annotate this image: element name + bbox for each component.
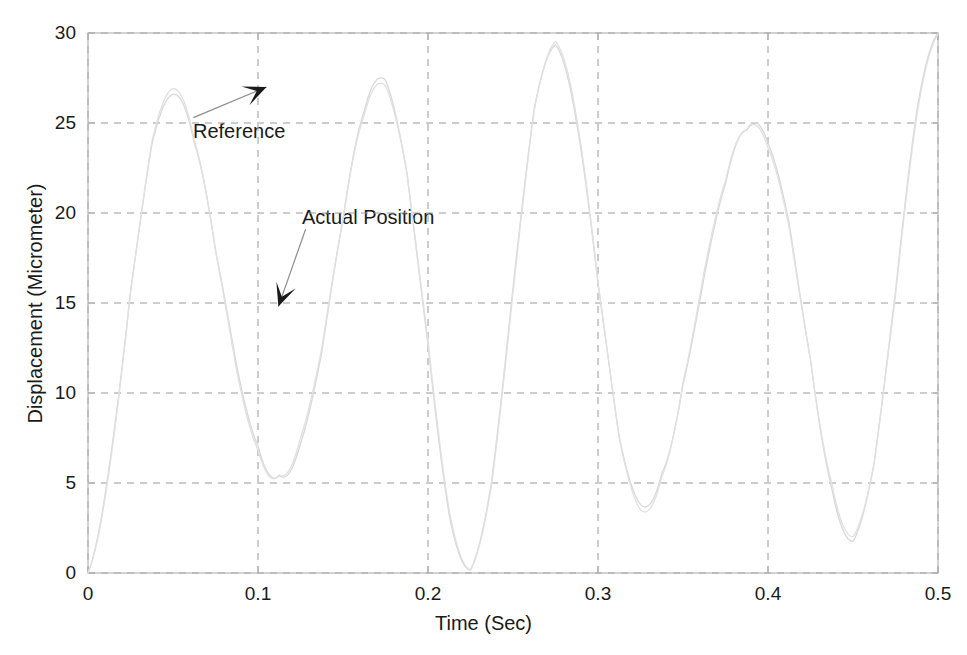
grid-layer [88, 33, 938, 573]
figure-canvas: 30 25 20 15 10 5 0 0 0.1 0.2 0.3 0.4 0.5… [0, 0, 967, 655]
axes-box [88, 33, 938, 573]
data-curve-actual-position [88, 34, 938, 573]
annotation-actual-position-leader-line [278, 229, 305, 306]
data-curves-layer [88, 33, 938, 573]
data-curve-reference [88, 33, 938, 573]
annotation-reference-leader-line [193, 87, 266, 118]
plot-area [0, 0, 967, 655]
annotation-arrows-layer [193, 86, 305, 306]
axes-frame [88, 33, 938, 573]
